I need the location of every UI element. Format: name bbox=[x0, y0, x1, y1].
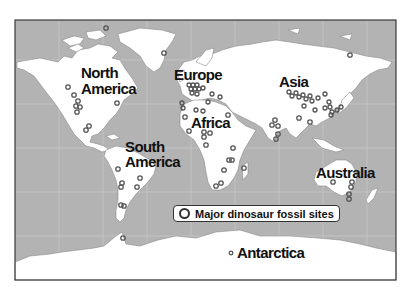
label-north-america: America bbox=[81, 80, 137, 97]
label-north-america: North bbox=[81, 64, 118, 81]
label-europe: Europe bbox=[174, 66, 222, 83]
label-africa: Africa bbox=[191, 114, 231, 131]
world-map: North America Europe Asia Africa South A… bbox=[0, 0, 406, 289]
open-circle-marker-icon bbox=[179, 208, 190, 219]
map-legend: Major dinosaur fossil sites bbox=[173, 205, 340, 222]
label-south-america: America bbox=[125, 153, 181, 170]
label-australia: Australia bbox=[316, 164, 376, 181]
label-asia: Asia bbox=[279, 73, 310, 90]
legend-label: Major dinosaur fossil sites bbox=[195, 208, 334, 220]
label-antarctica: Antarctica bbox=[237, 244, 306, 261]
